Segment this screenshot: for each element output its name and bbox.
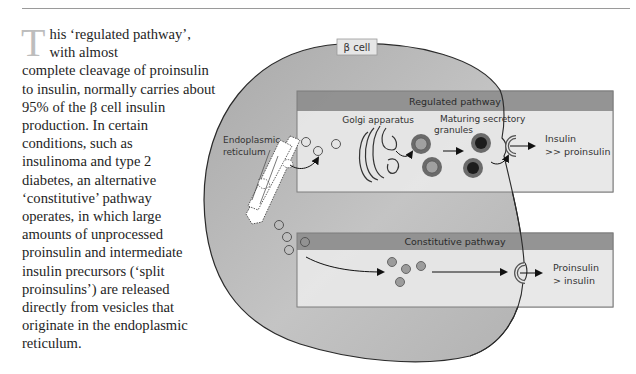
- er-label: reticulum: [223, 147, 266, 157]
- constitutive-output-label: Proinsulin: [553, 262, 599, 273]
- beta-cell-diagram: β cell Regulated pathway Constitutive pa…: [0, 0, 636, 374]
- er-label: Endoplasmic: [223, 135, 280, 145]
- regulated-pathway-title: Regulated pathway: [409, 96, 501, 107]
- granules-label: granules: [434, 125, 473, 135]
- regulated-output-label: Insulin: [545, 133, 576, 144]
- constitutive-output-label: > insulin: [553, 275, 595, 286]
- svg-text:β cell: β cell: [344, 42, 371, 53]
- regulated-output-label: >> proinsulin: [545, 146, 610, 157]
- golgi-label: Golgi apparatus: [342, 115, 414, 125]
- constitutive-pathway-title: Constitutive pathway: [404, 236, 506, 247]
- cell-label: β cell: [337, 39, 377, 55]
- granules-label: Maturing secretory: [440, 114, 526, 124]
